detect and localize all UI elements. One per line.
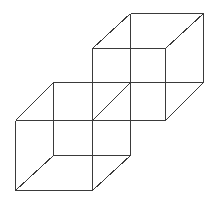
two-cubes-diagram bbox=[0, 0, 213, 197]
lower-left-cube bbox=[16, 83, 131, 191]
cube-edge bbox=[93, 83, 131, 121]
cube-edge bbox=[93, 14, 131, 49]
cube-edge bbox=[166, 83, 204, 121]
cube-edge bbox=[16, 156, 54, 191]
cube-edge bbox=[166, 14, 204, 49]
cube-edge bbox=[16, 83, 54, 121]
cube-edge bbox=[93, 156, 131, 191]
